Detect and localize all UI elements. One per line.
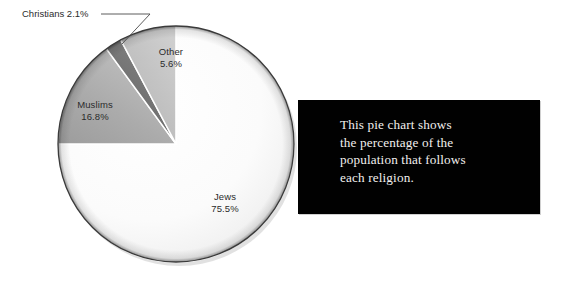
callout-line-4: each religion. <box>340 169 525 187</box>
callout-line-1: This pie chart shows <box>340 116 525 134</box>
slice-label-christians: Christians 2.1% <box>22 8 89 20</box>
annotation-callout-box: This pie chart shows the percentage of t… <box>298 100 540 214</box>
pie-chart-figure: Christians 2.1% Other 5.6% Muslims 16.8%… <box>0 0 562 281</box>
callout-line-2: the percentage of the <box>340 134 525 152</box>
christians-label-text: Christians 2.1% <box>22 8 89 19</box>
callout-line-3: population that follows <box>340 151 525 169</box>
pie-rim-shading <box>58 26 294 262</box>
annotation-callout-text: This pie chart shows the percentage of t… <box>340 116 525 186</box>
